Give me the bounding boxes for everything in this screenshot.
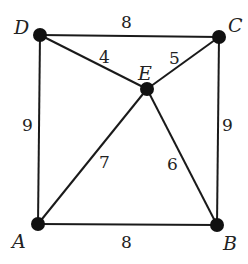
- edge-c-b: [217, 37, 219, 225]
- vertex-label-d: D: [13, 16, 29, 38]
- edge-weight-e-b: 6: [167, 154, 178, 174]
- vertex-e: [140, 82, 154, 96]
- edge-e-c: [147, 37, 219, 89]
- edge-weight-c-b: 9: [222, 115, 233, 135]
- weighted-graph-diagram: D C E A B 8 4 5 9 9 7 6 8: [0, 0, 248, 264]
- edge-d-e: [40, 35, 147, 89]
- edge-e-b: [147, 89, 217, 225]
- edge-a-e: [38, 89, 147, 224]
- vertex-label-e: E: [137, 62, 152, 84]
- edge-weight-d-e: 4: [99, 47, 110, 67]
- edge-d-c: [40, 35, 219, 37]
- edge-weight-e-c: 5: [169, 48, 180, 68]
- edge-weight-a-b: 8: [121, 232, 132, 252]
- edge-weight-d-c: 8: [121, 12, 132, 32]
- edge-a-b: [38, 224, 217, 225]
- vertex-c: [212, 30, 226, 44]
- vertex-d: [33, 28, 47, 42]
- edge-weight-a-e: 7: [99, 152, 110, 172]
- vertex-b: [210, 218, 224, 232]
- edge-d-a: [38, 35, 40, 224]
- vertex-label-b: B: [222, 232, 237, 254]
- vertex-a: [31, 217, 45, 231]
- vertex-label-c: C: [228, 14, 243, 36]
- edge-weight-d-a: 9: [22, 115, 33, 135]
- vertex-label-a: A: [10, 230, 26, 252]
